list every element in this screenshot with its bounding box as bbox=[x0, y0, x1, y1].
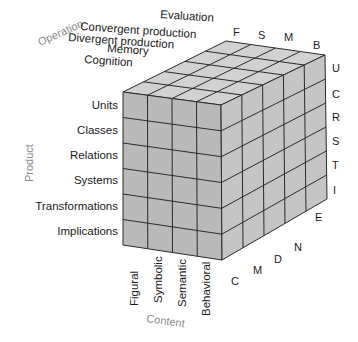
product-letter-s: S bbox=[332, 135, 339, 147]
operation-cognition: Cognition bbox=[84, 53, 133, 68]
operation-letter-b: B bbox=[313, 39, 320, 51]
product-relations: Relations bbox=[70, 149, 118, 161]
content-letter-c: C bbox=[231, 275, 239, 287]
content-letter-n: N bbox=[294, 241, 302, 253]
soi-cube-diagram: Operation Product Content Evaluation Con… bbox=[0, 0, 358, 342]
product-transformations: Transformations bbox=[35, 200, 118, 212]
content-behavioral: Behavioral bbox=[200, 262, 212, 316]
operation-letter-f: F bbox=[233, 26, 240, 38]
content-figural: Figural bbox=[128, 271, 140, 306]
axis-label-product: Product bbox=[23, 144, 35, 182]
product-units: Units bbox=[92, 99, 118, 111]
content-semantic: Semantic bbox=[176, 259, 188, 307]
product-systems: Systems bbox=[74, 174, 118, 186]
operation-evaluation: Evaluation bbox=[160, 8, 214, 24]
content-letter-e: E bbox=[315, 211, 322, 223]
operation-letter-m: M bbox=[284, 31, 293, 43]
product-letter-r: R bbox=[332, 111, 340, 123]
content-symbolic: Symbolic bbox=[152, 256, 164, 303]
axis-label-content: Content bbox=[146, 312, 186, 329]
product-letter-t: T bbox=[332, 159, 339, 171]
product-letter-i: I bbox=[333, 184, 336, 196]
product-letter-c: C bbox=[332, 88, 340, 100]
product-letter-u: U bbox=[332, 62, 340, 74]
operation-letter-s: S bbox=[258, 29, 265, 41]
product-classes: Classes bbox=[77, 124, 118, 136]
product-implications: Implications bbox=[57, 225, 118, 237]
content-letter-d: D bbox=[274, 253, 282, 265]
content-letter-m: M bbox=[253, 264, 262, 276]
